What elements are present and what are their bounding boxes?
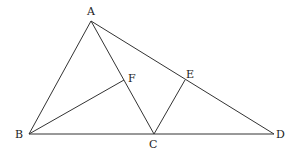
label-point-e: E [186, 68, 194, 81]
label-point-a: A [86, 5, 96, 18]
geometry-diagram: A B C D E F [0, 0, 299, 150]
label-point-f: F [128, 72, 136, 85]
label-point-c: C [149, 138, 157, 150]
segments [29, 21, 274, 134]
label-point-b: B [15, 128, 23, 141]
label-point-d: D [276, 128, 285, 141]
segment-CE [154, 80, 185, 134]
segment-AC [91, 21, 154, 134]
point-labels: A B C D E F [15, 5, 285, 150]
segment-AD [91, 21, 274, 134]
segment-AB [29, 21, 91, 134]
